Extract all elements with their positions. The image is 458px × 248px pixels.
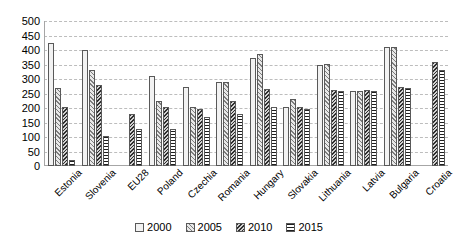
bar-group [45, 21, 79, 166]
x-axis-tick-label: Latvia [360, 167, 387, 194]
y-axis-tick-label: 500 [22, 16, 40, 27]
bar [129, 114, 135, 166]
bar [89, 70, 95, 166]
chart-legend: 2000200520102015 [0, 222, 458, 233]
legend-item[interactable]: 2010 [236, 222, 272, 233]
bar [103, 136, 109, 166]
bar [156, 101, 162, 166]
bar [304, 109, 310, 166]
y-axis-tick-label: 0 [34, 161, 40, 172]
y-axis-labels: 500450400350300250200150100500 [0, 21, 40, 166]
bar-group [246, 21, 280, 166]
bar [136, 129, 142, 166]
x-axis-tick-label: Croatia [423, 167, 454, 198]
legend-label: 2015 [298, 222, 322, 233]
bar [183, 87, 189, 166]
bar [69, 160, 75, 166]
legend-label: 2000 [147, 222, 171, 233]
bar [48, 43, 54, 166]
bar-group [414, 21, 448, 166]
bar [82, 50, 88, 166]
y-axis-tick-label: 350 [22, 59, 40, 70]
x-axis-tick-label: Romania [216, 167, 252, 203]
legend-item[interactable]: 2015 [286, 222, 322, 233]
bar [204, 117, 210, 166]
bar [432, 62, 438, 166]
bar-chart: 500450400350300250200150100500 EstoniaSl… [0, 0, 458, 248]
x-axis-tick-label: EU28 [125, 167, 150, 192]
bar [384, 47, 390, 166]
bar [391, 47, 397, 166]
x-axis-tick-label: Hungary [251, 167, 286, 202]
bar-group [314, 21, 348, 166]
bar [324, 64, 330, 166]
legend-label: 2010 [248, 222, 272, 233]
bar-group [179, 21, 213, 166]
bar [290, 99, 296, 166]
legend-swatch-icon [186, 223, 195, 232]
bar [371, 91, 377, 166]
bar [257, 54, 263, 166]
bar-group [79, 21, 113, 166]
bar [364, 90, 370, 166]
bar [439, 70, 445, 166]
y-axis-tick-label: 250 [22, 88, 40, 99]
x-axis-tick-label: Bulgaria [387, 167, 421, 201]
bar [216, 82, 222, 166]
x-axis-tick-label: Poland [155, 167, 185, 197]
x-axis-labels: EstoniaSloveniaEU28PolandCzechiaRomaniaH… [45, 167, 449, 211]
bar [283, 107, 289, 166]
bar [398, 87, 404, 166]
bar [197, 109, 203, 166]
bar [55, 88, 61, 166]
bar [271, 107, 277, 166]
y-axis-tick-label: 100 [22, 132, 40, 143]
bar [338, 91, 344, 166]
bar [190, 107, 196, 166]
y-axis-tick-label: 50 [28, 146, 40, 157]
y-axis-tick-label: 150 [22, 117, 40, 128]
x-axis-tick-label: Lithuania [316, 167, 352, 203]
bar-group [381, 21, 415, 166]
x-axis-tick-label: Czechia [185, 167, 218, 200]
x-axis-tick-label: Slovenia [82, 167, 117, 202]
bar-group [146, 21, 180, 166]
bar-group [112, 21, 146, 166]
bar-group [347, 21, 381, 166]
y-axis-tick-label: 200 [22, 103, 40, 114]
legend-label: 2005 [198, 222, 222, 233]
bar [170, 129, 176, 166]
bar-group [280, 21, 314, 166]
bar [317, 65, 323, 166]
bar [250, 58, 256, 166]
bar [163, 107, 169, 166]
bar [264, 89, 270, 166]
legend-swatch-icon [135, 223, 144, 232]
legend-swatch-icon [286, 223, 295, 232]
bar [297, 107, 303, 166]
bar [237, 114, 243, 166]
plot-area [44, 21, 448, 166]
bar [357, 91, 363, 166]
legend-item[interactable]: 2000 [135, 222, 171, 233]
bar [230, 101, 236, 166]
bar-groups [45, 21, 448, 166]
bar [223, 82, 229, 166]
y-axis-tick-label: 450 [22, 30, 40, 41]
y-axis-tick-label: 400 [22, 45, 40, 56]
x-axis-tick-label: Slovakia [285, 167, 320, 202]
bar [405, 88, 411, 166]
bar [96, 85, 102, 166]
bar [350, 91, 356, 166]
y-axis-tick-label: 300 [22, 74, 40, 85]
legend-swatch-icon [236, 223, 245, 232]
legend-item[interactable]: 2005 [186, 222, 222, 233]
x-axis-tick-label: Estonia [52, 167, 83, 198]
bar [331, 90, 337, 166]
bar-group [213, 21, 247, 166]
bar [149, 76, 155, 166]
bar [62, 107, 68, 166]
